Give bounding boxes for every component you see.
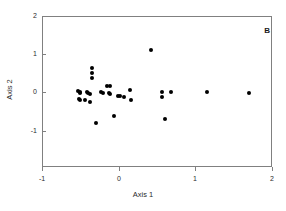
data-point <box>108 84 112 88</box>
y-axis-tick-label: 1 <box>21 50 37 58</box>
data-point <box>78 98 82 102</box>
data-point <box>205 90 209 94</box>
x-axis-tick <box>195 167 196 171</box>
data-point <box>169 90 173 94</box>
data-point <box>247 91 251 95</box>
y-axis-tick <box>42 16 46 17</box>
x-axis-tick <box>272 167 273 171</box>
scatter-plot-figure: -1012-1012 Axis 1 Axis 2 B <box>0 0 286 211</box>
panel-label: B <box>264 26 270 35</box>
x-axis-tick-label: -1 <box>32 175 52 183</box>
x-axis-title: Axis 1 <box>0 190 286 199</box>
x-axis-tick-label: 1 <box>185 175 205 183</box>
data-point <box>163 117 167 121</box>
y-axis-tick <box>42 92 46 93</box>
data-point <box>83 98 87 102</box>
data-point <box>94 121 98 125</box>
data-point <box>88 92 92 96</box>
y-axis-tick-label: 0 <box>21 88 37 96</box>
x-axis-tick-label: 0 <box>109 175 129 183</box>
data-point <box>90 76 94 80</box>
x-axis-tick <box>119 167 120 171</box>
y-axis-tick-label: 2 <box>21 12 37 20</box>
y-axis-tick <box>42 54 46 55</box>
data-point <box>129 98 133 102</box>
y-axis-tick <box>42 131 46 132</box>
y-axis-tick-label: -1 <box>21 127 37 135</box>
x-axis-tick <box>42 167 43 171</box>
data-point <box>160 90 164 94</box>
x-axis-tick-label: 2 <box>262 175 282 183</box>
y-axis-title: Axis 2 <box>5 68 14 112</box>
